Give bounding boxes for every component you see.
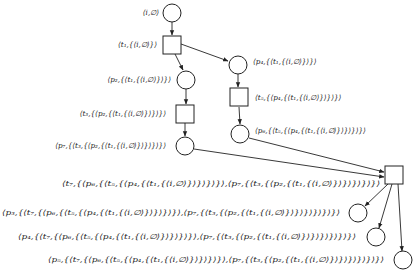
- label-place-p4-second: ⟨p₄,{⟨t₇,{⟨p₆,{⟨t₅,{⟨p₄,{⟨t₁,{⟨i,∅⟩}⟩}⟩}…: [18, 232, 356, 241]
- label-transition-t7: ⟨t₇,{⟨p₆,{⟨t₅,{⟨p₄,{⟨t₁,{⟨i,∅⟩}⟩}⟩}⟩}⟩,⟨…: [62, 179, 380, 188]
- place-p6: [231, 125, 249, 143]
- place-i: [163, 4, 181, 22]
- place-p5: [394, 251, 412, 269]
- label-place-p5: ⟨p₅,{⟨t₇,{⟨p₆,{⟨t₅,{⟨p₄,{⟨t₁,{⟨i,∅⟩}⟩}⟩}…: [48, 255, 384, 264]
- edge-p7-t7: [194, 149, 384, 177]
- transition-t1: [163, 36, 181, 54]
- petri-net-diagram: ⟨i,∅⟩ ⟨t₁,{⟨i,∅⟩}⟩ ⟨p₂,{⟨t₁,{⟨i,∅⟩}⟩}⟩ ⟨…: [0, 0, 419, 279]
- label-transition-t5: ⟨t₅,{⟨p₄,{⟨t₁,{⟨i,∅⟩}⟩}⟩}⟩: [255, 93, 342, 102]
- place-p3: [349, 204, 367, 222]
- edge-t1-p4: [181, 44, 228, 61]
- label-place-p6: ⟨p₆,{⟨t₅,{⟨p₄,{⟨t₁,{⟨i,∅⟩}⟩}⟩}⟩}⟩: [255, 126, 366, 135]
- transition-t5: [230, 88, 248, 106]
- transition-t7: [385, 166, 403, 184]
- label-place-p7: ⟨p₇,{⟨t₃,{⟨p₂,{⟨t₁,{⟨i,∅⟩}⟩}⟩}⟩}⟩: [55, 141, 166, 150]
- place-p4: [229, 56, 247, 74]
- label-place-p2: ⟨p₂,{⟨t₁,{⟨i,∅⟩}⟩}⟩: [107, 75, 171, 84]
- edge-t1-p2: [175, 54, 183, 70]
- place-p4-second: [367, 228, 385, 246]
- label-transition-t1: ⟨t₁,{⟨i,∅⟩}⟩: [118, 40, 157, 49]
- place-p7: [176, 137, 194, 155]
- label-place-p3: ⟨p₃,{⟨t₇,{⟨p₆,{⟨t₅,{⟨p₄,{⟨t₁,{⟨i,∅⟩}⟩}⟩}…: [2, 208, 340, 217]
- transition-t3: [176, 105, 194, 123]
- label-place-p4: ⟨p₄,{⟨t₁,{⟨i,∅⟩}⟩}⟩: [253, 57, 317, 66]
- edge-t7-p5: [398, 184, 402, 251]
- place-p2: [177, 71, 195, 89]
- label-place-i: ⟨i,∅⟩: [143, 8, 159, 17]
- label-transition-t3: ⟨t₃,{⟨p₂,{⟨t₁,{⟨i,∅⟩}⟩}⟩}⟩: [80, 109, 167, 118]
- edge-t5-p6: [239, 107, 240, 124]
